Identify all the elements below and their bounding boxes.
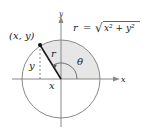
formula-radicand: x² + y²	[104, 23, 135, 33]
distance-formula: r = √ x² + y²	[73, 21, 140, 35]
y-projection-label: y	[28, 60, 35, 71]
x-axis-label: x	[121, 75, 126, 84]
polar-coordinates-diagram: (x, y) y x r θ y x r = √ x² + y²	[0, 0, 151, 134]
formula-lhs: r	[73, 22, 79, 33]
point-marker	[38, 43, 42, 47]
x-axis-arrow-icon	[113, 77, 120, 82]
y-axis-label: y	[58, 10, 64, 18]
formula-equals: =	[83, 22, 91, 33]
angle-label: θ	[77, 56, 83, 67]
x-projection-label: x	[49, 80, 55, 91]
formula-radical-icon: √	[95, 21, 103, 35]
point-label: (x, y)	[9, 30, 35, 41]
